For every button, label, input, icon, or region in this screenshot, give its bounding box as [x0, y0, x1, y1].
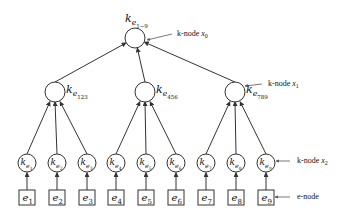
ann-x0-label: k-node x0: [177, 29, 208, 39]
mid-knode-label-m1: ke123: [66, 83, 88, 100]
edge-l2-to-m1: [55, 102, 57, 155]
edge-l7-to-m3: [206, 102, 230, 155]
edge-m2-to-root: [137, 48, 145, 82]
mid-knode-circle-m3: [225, 82, 245, 102]
edge-l9-to-m3: [240, 102, 266, 155]
ann-x2-label: k-node x2: [297, 156, 328, 166]
edge-l5-to-m2: [145, 102, 146, 155]
edge-l3-to-m1: [60, 102, 87, 155]
edge-m3-to-root: [144, 42, 235, 82]
ann-x1-label: k-node x1: [268, 79, 299, 89]
mid-knode-circle-m2: [135, 82, 155, 102]
ann-x0-pointer-arrow: [147, 34, 172, 40]
edge-l6-to-m2: [150, 102, 176, 155]
mid-knode-circle-m1: [45, 82, 65, 102]
root-knode-circle: [125, 28, 145, 48]
edge-l8-to-m3: [235, 102, 236, 155]
edge-l4-to-m2: [116, 102, 140, 155]
ann-enode-label: e-node: [297, 192, 319, 201]
edge-m1-to-root: [55, 43, 126, 82]
mid-knode-label-m2: ke456: [156, 83, 178, 100]
edge-l1-to-m1: [27, 102, 50, 155]
root-knode-label: ke1−9: [125, 12, 148, 29]
diagram-svg: ke1−9ke123ke456ke789ke1ke2ke3ke4ke5ke6ke…: [0, 0, 350, 218]
hierarchical-knode-tree-diagram: ke1−9ke123ke456ke789ke1ke2ke3ke4ke5ke6ke…: [0, 0, 350, 218]
